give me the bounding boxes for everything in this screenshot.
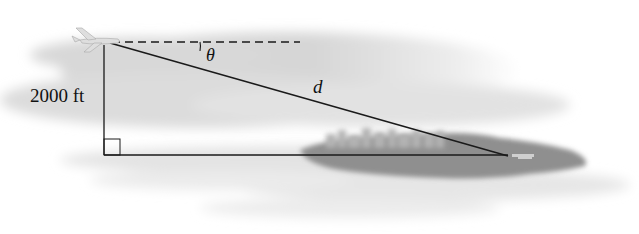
diagram-graphic [0, 0, 639, 234]
distance-d-label: d [313, 76, 323, 98]
sky-clouds [0, 32, 570, 128]
city-skyline [326, 128, 444, 148]
diagram-canvas: 2000 ft θ d [0, 0, 639, 234]
angle-arc [200, 42, 201, 51]
height-label: 2000 ft [30, 85, 84, 107]
angle-theta-label: θ [206, 45, 215, 66]
